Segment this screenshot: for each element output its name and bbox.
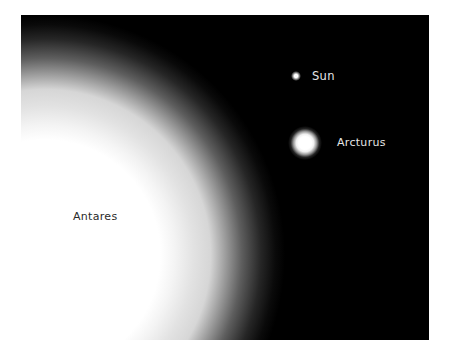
arcturus-label: Arcturus [337, 137, 386, 149]
sun-label: Sun [312, 70, 335, 82]
arcturus-star [288, 126, 322, 160]
antares-star [21, 15, 285, 340]
sun-star [291, 71, 301, 81]
antares-label: Antares [73, 211, 117, 223]
star-comparison-figure: Sun Arcturus Antares [21, 15, 429, 340]
